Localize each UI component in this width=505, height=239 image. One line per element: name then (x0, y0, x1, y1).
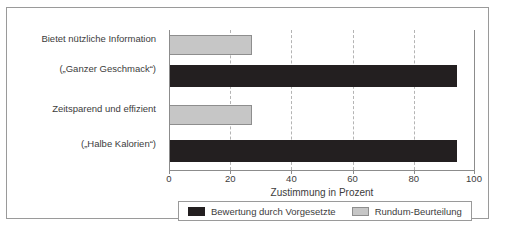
legend-label-bewertung-vorgesetzte: Bewertung durch Vorgesetzte (211, 206, 336, 217)
x-tick-label-20: 20 (210, 173, 250, 184)
chart-figure: Bietet nützliche Information („Ganzer Ge… (6, 7, 489, 219)
x-axis-tick-labels: 0 20 40 60 80 100 (169, 173, 475, 187)
category-label-3: Zeitsparend und effizient (6, 103, 156, 114)
legend-swatch-light (352, 207, 369, 216)
chart-legend: Bewertung durch Vorgesetzte Rundum-Beurt… (178, 201, 472, 221)
x-tick-label-0: 0 (149, 173, 189, 184)
y-axis-line (169, 30, 170, 170)
category-label-4: („Halbe Kalorien“) (6, 138, 156, 149)
x-tick-label-80: 80 (394, 173, 434, 184)
category-axis-labels: Bietet nützliche Information („Ganzer Ge… (7, 30, 162, 170)
right-axis-line (474, 30, 475, 170)
bar-bewertung-vorgesetzte-2 (169, 140, 457, 162)
legend-label-rundum-beurteilung: Rundum-Beurteilung (375, 206, 462, 217)
bar-rundum-beurteilung-2 (169, 105, 252, 125)
legend-entry-bewertung-vorgesetzte: Bewertung durch Vorgesetzte (188, 206, 336, 217)
legend-entry-rundum-beurteilung: Rundum-Beurteilung (352, 206, 462, 217)
category-label-2: („Ganzer Geschmack“) (6, 63, 156, 74)
bar-bewertung-vorgesetzte-1 (169, 65, 457, 87)
x-tick-label-100: 100 (454, 173, 494, 184)
x-tick-label-40: 40 (271, 173, 311, 184)
x-axis-line (169, 170, 475, 171)
x-tick-label-60: 60 (333, 173, 373, 184)
bar-rundum-beurteilung-1 (169, 35, 252, 55)
x-axis-title: Zustimmung in Prozent (169, 187, 475, 198)
legend-swatch-dark (188, 207, 205, 216)
plot-area (169, 30, 475, 170)
category-label-1: Bietet nützliche Information (6, 33, 156, 44)
